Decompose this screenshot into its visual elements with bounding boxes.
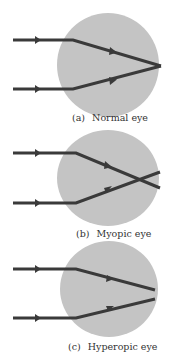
caption-hyperopic-eye: (c)Hyperopic eye <box>68 341 157 352</box>
caption-label: Normal eye <box>92 112 148 123</box>
caption-label: Myopic eye <box>97 228 152 239</box>
eyeball <box>57 13 159 117</box>
hyperopic-eye-diagram <box>13 241 158 337</box>
caption-normal-eye: (a)Normal eye <box>72 112 148 123</box>
myopic-eye-diagram <box>13 130 160 226</box>
caption-label: Hyperopic eye <box>88 341 158 352</box>
normal-eye-diagram <box>13 13 161 117</box>
caption-tag: (a) <box>72 112 85 123</box>
eye-diagrams <box>0 0 170 359</box>
caption-myopic-eye: (b)Myopic eye <box>76 228 151 239</box>
caption-tag: (c) <box>68 341 81 352</box>
eyeball <box>60 241 158 337</box>
caption-tag: (b) <box>76 228 90 239</box>
